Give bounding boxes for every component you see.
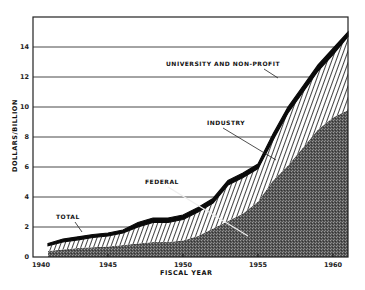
y-tick: 12 <box>20 73 29 81</box>
x-tick: 1960 <box>324 261 343 269</box>
x-tick: 1950 <box>174 261 193 269</box>
label-total: TOTAL <box>56 213 80 220</box>
x-tick: 1955 <box>249 261 268 269</box>
y-tick: 2 <box>24 223 29 231</box>
x-tick: 1945 <box>99 261 118 269</box>
x-tick: 1940 <box>32 261 51 269</box>
x-axis-label: FISCAL YEAR <box>160 269 212 277</box>
y-tick: 4 <box>24 193 29 201</box>
stacked-area-chart: 02468101214 19401945195019551960 DOLLARS… <box>0 0 365 290</box>
label-industry: INDUSTRY <box>207 119 245 126</box>
y-tick: 10 <box>20 103 30 111</box>
y-tick: 0 <box>24 253 29 261</box>
y-tick: 6 <box>24 163 29 171</box>
y-tick-labels: 02468101214 <box>20 43 30 261</box>
x-tick-labels: 19401945195019551960 <box>32 261 343 269</box>
y-axis-label: DOLLARS/BILLION <box>11 99 19 172</box>
y-tick: 8 <box>24 133 29 141</box>
label-university: UNIVERSITY AND NON-PROFIT <box>166 60 280 67</box>
label-federal: FEDERAL <box>145 178 179 185</box>
y-tick: 14 <box>20 43 30 51</box>
